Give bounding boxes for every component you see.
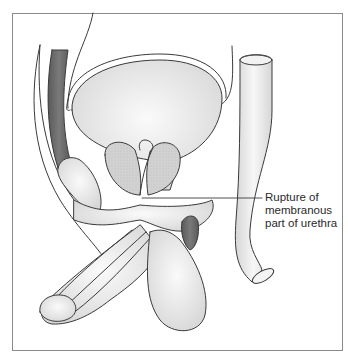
annotation-line-2: membranous [265, 204, 337, 217]
pelvis-diagram [0, 0, 348, 357]
scrotum [147, 230, 206, 331]
annotation-line-3: part of urethra [265, 217, 337, 230]
glans [40, 295, 76, 321]
annotation-line-1: Rupture of [265, 191, 337, 204]
prostate-left [105, 142, 141, 195]
annotation-label: Rupture of membranous part of urethra [265, 191, 337, 230]
pubic-bone [235, 55, 272, 282]
